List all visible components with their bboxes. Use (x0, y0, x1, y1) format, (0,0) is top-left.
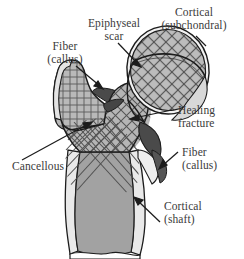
label-cortical-shaft-line1: Cortical (164, 200, 202, 212)
label-fiber-callus-top-line2: (callus) (34, 53, 96, 66)
label-fiber-callus-right-line1: Fiber (182, 146, 207, 158)
label-cortical-subchondral: Cortical (subchondral) (146, 6, 242, 31)
label-cancellous-line1: Cancellous (12, 160, 64, 172)
label-cortical-shaft: Cortical (shaft) (164, 200, 202, 225)
label-fiber-callus-right: Fiber (callus) (182, 146, 217, 171)
label-healing-fracture-line2: fracture (178, 117, 215, 130)
label-cortical-subchondral-line2: (subchondral) (146, 19, 242, 32)
label-epiphyseal-scar: Epiphyseal scar (78, 17, 150, 42)
label-cancellous: Cancellous (12, 160, 64, 173)
label-fiber-callus-top-line1: Fiber (53, 40, 78, 52)
label-epiphyseal-scar-line1: Epiphyseal (88, 17, 140, 29)
label-cortical-subchondral-line1: Cortical (175, 6, 213, 18)
label-fiber-callus-right-line2: (callus) (182, 159, 217, 172)
label-cortical-shaft-line2: (shaft) (164, 213, 202, 226)
label-healing-fracture-line1: Healing (178, 104, 215, 116)
label-fiber-callus-top: Fiber (callus) (34, 40, 96, 65)
label-healing-fracture: Healing fracture (178, 104, 215, 129)
